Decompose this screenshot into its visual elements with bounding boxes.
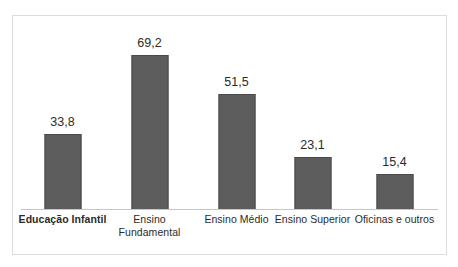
- bar-value-label: 15,4: [382, 155, 407, 169]
- category-label-line1: Educação Infantil: [19, 213, 107, 225]
- bar-oficinas-e-outros[interactable]: [376, 174, 413, 210]
- bar-slot: 15,4: [351, 16, 438, 210]
- category-label-line1: Ensino Superior: [275, 213, 350, 225]
- bar-value-label: 33,8: [50, 115, 75, 129]
- category-label-line1: Oficinas e outros: [355, 213, 435, 225]
- bar-slot: 51,5: [193, 16, 280, 210]
- category-label-ensino-fundamental: Ensino Fundamental: [103, 213, 196, 239]
- bar-slot: 23,1: [269, 16, 356, 210]
- category-label-line1: Ensino: [133, 213, 165, 225]
- category-label-line2: Fundamental: [119, 226, 181, 238]
- bar-ensino-fundamental[interactable]: [131, 55, 168, 210]
- bar-value-label: 69,2: [137, 36, 162, 50]
- category-label-oficinas-e-outros: Oficinas e outros: [348, 213, 441, 226]
- bar-ensino-superior[interactable]: [294, 157, 331, 210]
- category-axis-line: [21, 209, 438, 210]
- top-text-remnant: [0, 0, 458, 9]
- bar-educacao-infantil[interactable]: [44, 134, 81, 210]
- bar-chart: 33,8 69,2 51,5 23,1 15,4 Educação Infant…: [12, 15, 447, 255]
- category-label-ensino-superior: Ensino Superior: [266, 213, 359, 226]
- bar-slot: 69,2: [106, 16, 193, 210]
- category-label-educacao-infantil: Educação Infantil: [16, 213, 109, 226]
- category-label-line1: Ensino Médio: [204, 213, 268, 225]
- bar-value-label: 51,5: [224, 75, 249, 89]
- bar-ensino-medio[interactable]: [218, 94, 255, 210]
- category-axis-labels: Educação Infantil Ensino Fundamental Ens…: [13, 213, 446, 255]
- bar-slot: 33,8: [19, 16, 106, 210]
- bar-value-label: 23,1: [300, 138, 325, 152]
- plot-area: 33,8 69,2 51,5 23,1 15,4: [13, 16, 446, 210]
